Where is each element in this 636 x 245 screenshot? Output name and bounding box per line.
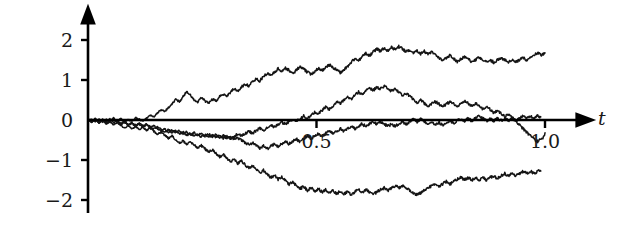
brownian-motion-figure: 210−1−2 0.51.0 t bbox=[0, 0, 636, 245]
chart-canvas bbox=[0, 0, 636, 245]
x-tick-label: 1.0 bbox=[530, 132, 560, 151]
y-tick-label: 1 bbox=[61, 71, 73, 90]
y-tick-label: −2 bbox=[45, 191, 73, 210]
axes-group bbox=[81, 22, 578, 213]
y-tick-label: 0 bbox=[61, 111, 73, 130]
sample-path-1 bbox=[88, 45, 545, 122]
y-tick-label: 2 bbox=[61, 31, 73, 50]
x-tick-label: 0.5 bbox=[301, 132, 331, 151]
x-axis-label: t bbox=[598, 107, 606, 129]
y-tick-label: −1 bbox=[45, 151, 73, 170]
